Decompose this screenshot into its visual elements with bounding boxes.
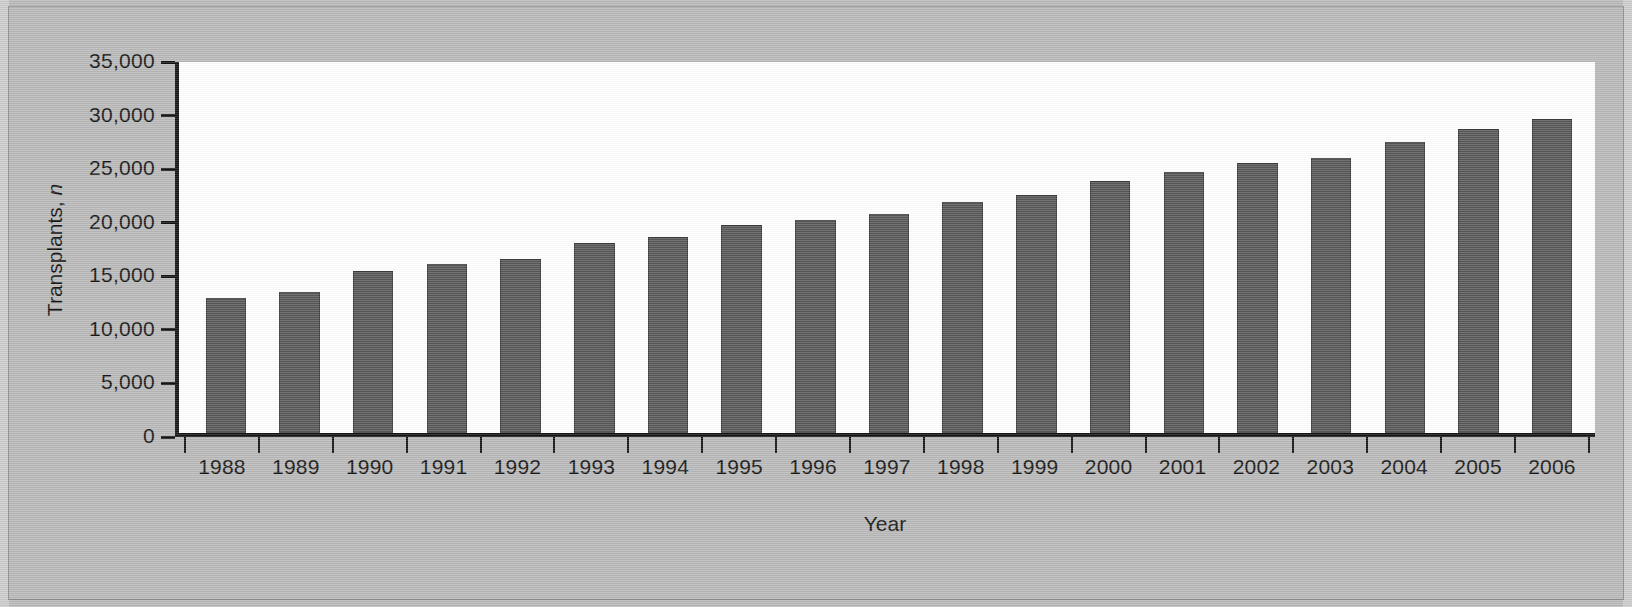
bar-2001 (1164, 172, 1205, 433)
x-axis-tick (628, 437, 702, 453)
x-axis-tick (1293, 437, 1367, 453)
bar-1988 (206, 298, 247, 433)
x-axis-tick-mark (553, 437, 555, 453)
x-axis-tick-label: 1992 (481, 455, 555, 479)
plot-area (179, 62, 1595, 433)
x-axis-tick-label: 1994 (628, 455, 702, 479)
x-axis-tick-label: 2006 (1515, 455, 1589, 479)
y-axis-tick-mark (161, 436, 175, 439)
x-axis-tick (554, 437, 628, 453)
x-axis-tick-mark (1292, 437, 1294, 453)
x-axis-title: Year (175, 512, 1595, 536)
y-axis-tick-label: 15,000 (89, 263, 161, 287)
x-axis-tick (481, 437, 555, 453)
bar-1995 (721, 225, 762, 433)
x-axis-tick-mark (627, 437, 629, 453)
bar-1990 (353, 271, 394, 433)
x-axis: 1988198919901991199219931994199519961997… (175, 437, 1595, 507)
x-axis-tick-label: 2000 (1072, 455, 1146, 479)
y-axis-tick-mark (161, 221, 175, 224)
bar-1989 (279, 292, 320, 433)
bar-1992 (500, 259, 541, 433)
x-axis-tick-mark (849, 437, 851, 453)
bar-cell (1221, 62, 1295, 433)
bar-cell (852, 62, 926, 433)
x-axis-tick (1367, 437, 1441, 453)
bar-cell (779, 62, 853, 433)
x-axis-tick-label: 2005 (1441, 455, 1515, 479)
bar-2002 (1237, 163, 1278, 433)
x-axis-tick-label: 1998 (924, 455, 998, 479)
bar-cell (1147, 62, 1221, 433)
x-axis-tick (850, 437, 924, 453)
x-axis-tick (702, 437, 776, 453)
x-axis-tick-mark (1071, 437, 1073, 453)
bar-cell (1000, 62, 1074, 433)
bar-cell (705, 62, 779, 433)
x-axis-tick-mark (184, 437, 186, 453)
bar-1993 (574, 243, 615, 433)
plot-frame (175, 62, 1595, 437)
x-axis-tick-mark (701, 437, 703, 453)
bar-cell (484, 62, 558, 433)
x-axis-tick-mark (480, 437, 482, 453)
x-axis-tick-label: 1995 (702, 455, 776, 479)
bar-1991 (427, 264, 468, 433)
bar-cell (410, 62, 484, 433)
bar-cell (263, 62, 337, 433)
y-axis-tick-mark (161, 275, 175, 278)
x-axis-tick-label: 2004 (1367, 455, 1441, 479)
x-axis-tick (1072, 437, 1146, 453)
bar-1996 (795, 220, 836, 433)
x-axis-tick (259, 437, 333, 453)
x-axis-tick-label: 1990 (333, 455, 407, 479)
x-axis-tick-mark (1588, 437, 1590, 453)
page-right-margin (1623, 0, 1632, 607)
x-axis-tick-label: 1996 (776, 455, 850, 479)
x-axis-tick-label: 1988 (185, 455, 259, 479)
y-axis-tick-label: 30,000 (89, 103, 161, 127)
x-axis-tick-mark (1218, 437, 1220, 453)
x-axis-tick-mark (258, 437, 260, 453)
y-axis-tick-mark (161, 382, 175, 385)
bar-cell (557, 62, 631, 433)
x-axis-tick (185, 437, 259, 453)
bar-2006 (1532, 119, 1573, 433)
bar-cell (926, 62, 1000, 433)
bar-2000 (1090, 181, 1131, 433)
y-axis-tick-label: 20,000 (89, 210, 161, 234)
x-axis-tick-mark (1440, 437, 1442, 453)
bar-cell (1442, 62, 1516, 433)
x-axis-tick-label: 2002 (1219, 455, 1293, 479)
y-axis-tick-label: 5,000 (101, 370, 161, 394)
bar-cell (336, 62, 410, 433)
x-axis-ticks (175, 437, 1595, 453)
x-axis-tick-label: 2003 (1293, 455, 1367, 479)
x-axis-tick-mark (1514, 437, 1516, 453)
x-axis-tick-mark (997, 437, 999, 453)
x-axis-tick-mark (1145, 437, 1147, 453)
x-axis-tick-label: 1993 (554, 455, 628, 479)
x-axis-tick-labels: 1988198919901991199219931994199519961997… (175, 455, 1595, 479)
bar-cell (189, 62, 263, 433)
x-axis-tick-mark (332, 437, 334, 453)
y-axis-tick-label: 0 (143, 424, 161, 448)
x-axis-tick (407, 437, 481, 453)
x-axis-tick-label: 2001 (1146, 455, 1220, 479)
x-axis-tick (998, 437, 1072, 453)
y-axis-tick-label: 25,000 (89, 156, 161, 180)
x-axis-tick-mark (775, 437, 777, 453)
x-axis-tick (1146, 437, 1220, 453)
x-axis-tick-label: 1997 (850, 455, 924, 479)
bar-1998 (942, 202, 983, 433)
bar-2005 (1458, 129, 1499, 433)
bar-series (179, 62, 1595, 433)
x-axis-tick (1515, 437, 1589, 453)
bar-cell (1515, 62, 1589, 433)
x-axis-tick (333, 437, 407, 453)
y-axis: 05,00010,00015,00020,00025,00030,00035,0… (0, 62, 175, 437)
bar-2003 (1311, 158, 1352, 433)
x-axis-tick (1441, 437, 1515, 453)
bar-1999 (1016, 195, 1057, 433)
x-axis-tick-label: 1991 (407, 455, 481, 479)
